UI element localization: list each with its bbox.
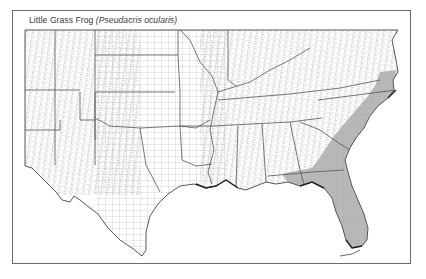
florida-keys [340, 250, 360, 256]
land-area [20, 25, 400, 265]
range-map [0, 0, 426, 279]
